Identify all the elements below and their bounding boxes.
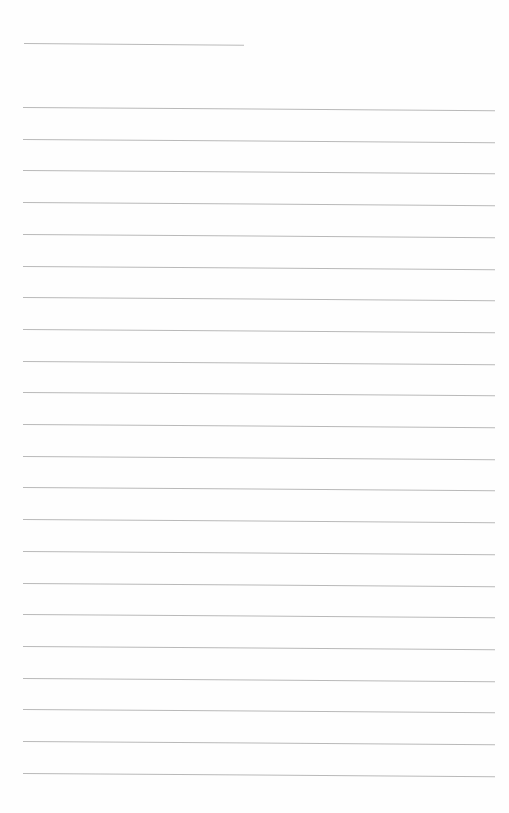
ruled-line	[23, 361, 495, 365]
ruled-line	[23, 329, 495, 333]
ruled-line	[23, 709, 495, 713]
ruled-line	[23, 519, 495, 523]
ruled-line	[23, 456, 495, 460]
title-rule-line	[24, 43, 244, 46]
ruled-line	[23, 614, 495, 618]
ruled-line	[23, 139, 495, 143]
ruled-line	[23, 234, 495, 238]
ruled-line	[23, 773, 495, 777]
ruled-line	[23, 170, 495, 174]
ruled-line	[23, 202, 495, 206]
ruled-line	[23, 487, 495, 491]
ruled-line	[23, 107, 495, 111]
ruled-line	[23, 424, 495, 428]
ruled-line	[23, 266, 495, 270]
ruled-line	[23, 583, 495, 587]
lined-page	[0, 0, 509, 813]
ruled-line	[23, 297, 495, 301]
ruled-line	[23, 392, 495, 396]
ruled-line	[23, 678, 495, 682]
ruled-line	[23, 646, 495, 650]
ruled-line	[23, 741, 495, 745]
ruled-line	[23, 551, 495, 555]
